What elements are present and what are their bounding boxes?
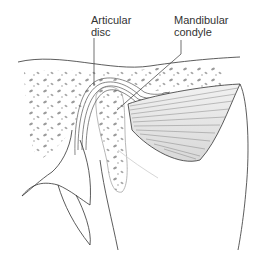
label-line: condyle [174, 26, 228, 38]
lateral-pterygoid-muscle [128, 84, 240, 161]
label-articular-disc: Articular disc [91, 14, 131, 38]
tmj-diagram [0, 0, 266, 262]
label-line: Mandibular [174, 14, 228, 26]
label-mandibular-condyle: Mandibular condyle [174, 14, 228, 38]
mandibular-condyle-shape [96, 87, 127, 192]
label-line: Articular [91, 14, 131, 26]
label-line: disc [91, 26, 131, 38]
